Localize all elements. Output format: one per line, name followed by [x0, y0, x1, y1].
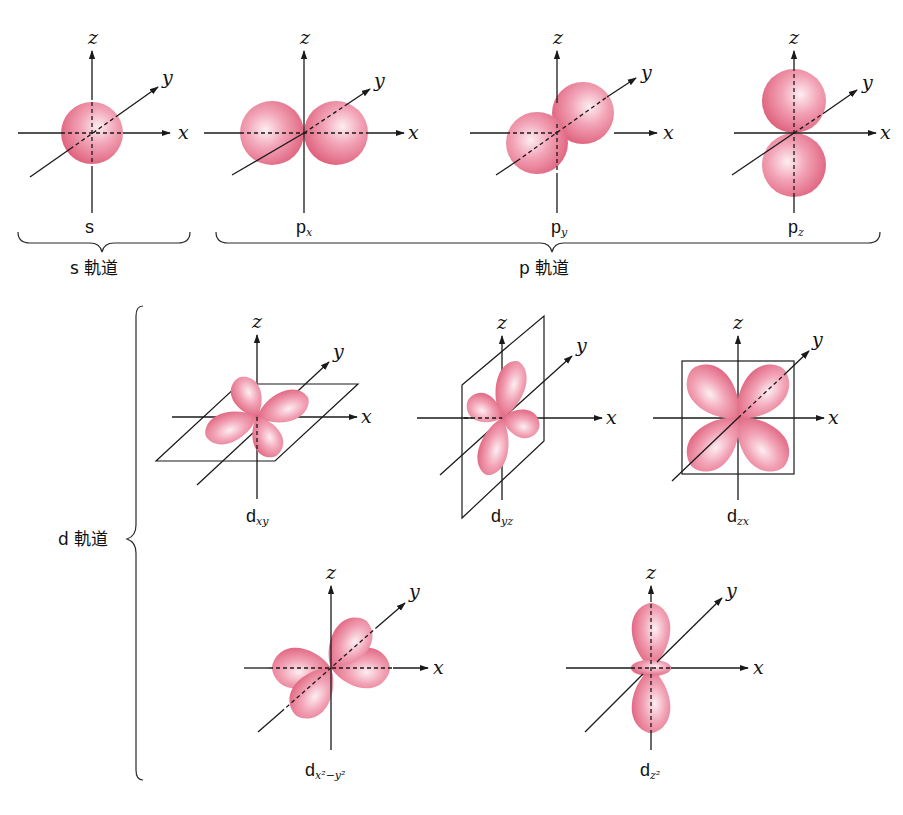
orbital-label-pz: pz: [788, 217, 804, 239]
z-axis-label: z: [788, 26, 800, 48]
orbital-label-px: px: [296, 217, 313, 239]
p-group-label: p 軌道: [519, 258, 569, 278]
y-axis-label: y: [725, 579, 737, 601]
z-axis-label: z: [87, 26, 99, 48]
z-axis-label: z: [496, 311, 508, 333]
atomic-orbitals-diagram: z x y s z x y px z x y py: [0, 0, 903, 815]
y-axis-label: y: [161, 66, 173, 88]
y-axis-label: y: [640, 61, 652, 83]
x-axis-label: x: [880, 121, 891, 143]
x-axis-label: x: [663, 121, 674, 143]
x-axis-label: x: [178, 121, 189, 143]
p-group-brace: [216, 232, 880, 252]
z-axis-label: z: [325, 561, 337, 583]
orbital-label-py: py: [551, 217, 568, 239]
orbital-dxy: z x y: [156, 310, 372, 499]
x-axis-label: x: [361, 405, 372, 427]
z-axis-label: z: [552, 26, 564, 48]
x-axis-label: x: [753, 656, 764, 678]
orbital-dz2: z x y: [566, 561, 764, 750]
s-group-label: s 軌道: [70, 258, 118, 278]
orbital-label-dxy: dxy: [246, 506, 269, 528]
orbital-dx2-y2: z x y: [244, 561, 444, 750]
s-group-brace: [18, 232, 190, 252]
orbital-py: z x y: [470, 26, 674, 213]
y-axis-label: y: [861, 71, 873, 93]
x-axis-label: x: [433, 656, 444, 678]
y-axis-label: y: [332, 340, 344, 362]
y-axis-label: y: [373, 69, 385, 91]
y-axis-label: y: [811, 328, 823, 350]
x-axis-label: x: [606, 406, 617, 428]
z-axis-label: z: [299, 26, 311, 48]
z-axis-label: z: [251, 310, 263, 332]
d-group-brace: [127, 306, 143, 780]
z-axis-label: z: [732, 311, 744, 333]
x-axis-label: x: [408, 121, 419, 143]
orbital-dzx: z x y: [653, 311, 839, 500]
orbital-pz: z x y: [732, 26, 891, 213]
orbital-label-dyz: dyz: [491, 506, 513, 528]
z-axis-label: z: [645, 561, 657, 583]
orbital-label-s: s: [85, 217, 94, 237]
d-group-label: d 軌道: [58, 529, 108, 549]
orbital-label-dzx: dzx: [727, 506, 750, 528]
x-axis-label: x: [828, 406, 839, 428]
orbital-label-dx2-y2: dx²−y²: [305, 760, 345, 782]
orbital-s: z x y: [18, 26, 189, 213]
orbital-px: z x y: [204, 26, 419, 213]
y-axis-label: y: [408, 580, 420, 602]
y-axis-label: y: [575, 334, 587, 356]
orbital-label-dz2: dz²: [640, 760, 660, 782]
orbital-dyz: z x y: [417, 311, 617, 518]
